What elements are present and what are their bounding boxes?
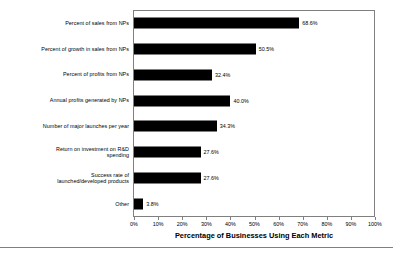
category-label: Percent of profits from NPs <box>4 71 132 78</box>
bar-track: 34.3% <box>134 114 375 140</box>
category-label: Percent of sales from NPs <box>4 20 132 27</box>
bar <box>134 121 217 132</box>
bar-value-label: 68.6% <box>299 20 317 27</box>
bar-track: 32.4% <box>134 62 375 88</box>
bar-row: Other3.8% <box>0 191 393 217</box>
x-axis-tick-label: 0% <box>130 220 138 228</box>
bar-track: 27.6% <box>134 165 375 191</box>
x-axis-tick-label: 30% <box>201 220 212 228</box>
category-label: Return on investment on R&D spending <box>4 146 132 159</box>
bar <box>134 43 256 54</box>
bar <box>134 199 143 210</box>
x-axis-tick-label: 70% <box>297 220 308 228</box>
bar-track: 27.6% <box>134 139 375 165</box>
bar-chart: Percent of sales from NPs68.6%Percent of… <box>0 0 393 254</box>
bar <box>134 147 201 158</box>
x-axis-tick-label: 10% <box>153 220 164 228</box>
bar-row: Success rate of launched/developed produ… <box>0 165 393 191</box>
category-label: Other <box>4 201 132 208</box>
bar <box>134 95 230 106</box>
bar-track: 68.6% <box>134 10 375 36</box>
bar-value-label: 27.6% <box>201 175 219 182</box>
x-axis-tick-label: 100% <box>368 220 382 228</box>
category-label: Annual profits generated by NPs <box>4 97 132 104</box>
x-axis-tick-label: 40% <box>225 220 236 228</box>
bar-row: Percent of growth in sales from NPs50.5% <box>0 36 393 62</box>
bar-value-label: 27.6% <box>201 149 219 156</box>
bar-row: Number of major launches per year34.3% <box>0 114 393 140</box>
x-axis-tick-label: 20% <box>177 220 188 228</box>
bar <box>134 17 299 28</box>
footer-divider <box>0 247 393 248</box>
bar-row: Return on investment on R&D spending27.6… <box>0 139 393 165</box>
bar-track: 50.5% <box>134 36 375 62</box>
x-axis-tick-label: 80% <box>321 220 332 228</box>
bar-track: 40.0% <box>134 88 375 114</box>
category-label: Number of major launches per year <box>4 123 132 130</box>
x-axis-tick-labels: 0%10%20%30%40%50%60%70%80%90%100% <box>134 220 375 230</box>
bar-row: Annual profits generated by NPs40.0% <box>0 88 393 114</box>
bar-value-label: 50.5% <box>256 46 274 53</box>
x-axis-tick-label: 90% <box>345 220 356 228</box>
bar-row: Percent of sales from NPs68.6% <box>0 10 393 36</box>
bar-value-label: 34.3% <box>217 123 235 130</box>
x-axis-title: Percentage of Businesses Using Each Metr… <box>133 231 375 241</box>
bar-rows: Percent of sales from NPs68.6%Percent of… <box>0 10 393 217</box>
category-label: Percent of growth in sales from NPs <box>4 46 132 53</box>
bar-value-label: 40.0% <box>230 97 248 104</box>
bar-value-label: 32.4% <box>212 71 230 78</box>
category-label: Success rate of launched/developed produ… <box>4 172 132 185</box>
bar <box>134 69 212 80</box>
bar-track: 3.8% <box>134 191 375 217</box>
bar <box>134 173 201 184</box>
x-axis-tick-label: 60% <box>273 220 284 228</box>
bar-value-label: 3.8% <box>143 201 158 208</box>
x-axis-tick-label: 50% <box>249 220 260 228</box>
bar-row: Percent of profits from NPs32.4% <box>0 62 393 88</box>
